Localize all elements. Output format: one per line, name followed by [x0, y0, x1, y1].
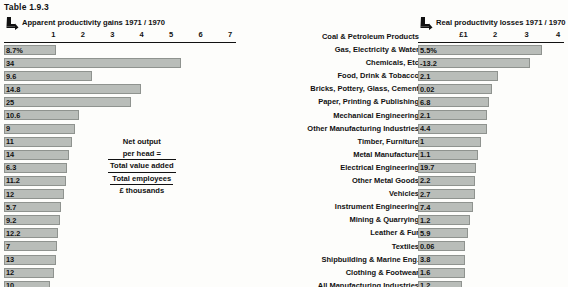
- category-label: Mining & Quarrying: [226, 213, 422, 226]
- bar-value-label: 3.8: [420, 255, 430, 265]
- chart-row: 19.7: [418, 162, 564, 175]
- chart-row: 5.5%: [418, 44, 564, 57]
- bar-value-label: 6.8: [420, 98, 430, 108]
- bar-value-label: 9: [6, 124, 10, 134]
- chart-row: 5.9: [418, 227, 564, 240]
- category-label: Gas, Electricity & Water: [226, 43, 422, 56]
- category-label: Metal Manufacture: [226, 148, 422, 161]
- left-note-line-4: Total employees: [110, 173, 173, 186]
- category-label: Electrical Engineering: [226, 161, 422, 174]
- bar-value-label: 12: [6, 190, 14, 200]
- category-label: Other Metal Goods: [226, 174, 422, 187]
- chart-row: 25: [4, 96, 236, 109]
- axis-tick: 5: [169, 30, 173, 39]
- bar-value-label: 25: [6, 98, 14, 108]
- bar: [4, 97, 131, 107]
- bar-value-label: 11.2: [6, 176, 20, 186]
- category-label: Shipbuilding & Marine Eng.: [226, 253, 422, 266]
- chart-row: 9: [4, 123, 236, 136]
- chart-row: 2.2: [418, 175, 564, 188]
- chart-row: 12.2: [4, 227, 236, 240]
- chart-row: -13.2: [418, 57, 564, 70]
- category-label: Food, Drink & Tobacco: [226, 69, 422, 82]
- category-label: Mechanical Engineering: [226, 109, 422, 122]
- bar-value-label: 1.6: [420, 268, 430, 278]
- axis-tick: 2: [493, 30, 497, 39]
- chart-row: 0.02: [418, 83, 564, 96]
- chart-row: 3.8: [418, 254, 564, 267]
- bar-value-label: 0.06: [420, 242, 434, 252]
- left-note-line-1: Net output: [108, 136, 176, 148]
- bar-value-label: 1: [420, 137, 424, 147]
- chart-row: 10.6: [4, 109, 236, 122]
- chart-row: 12: [4, 267, 236, 280]
- category-label: Other Manufacturing Industries: [226, 122, 422, 135]
- chart-row: 1.6: [418, 267, 564, 280]
- down-arrow-icon: [419, 17, 433, 30]
- bar-value-label: 2.1: [420, 111, 430, 121]
- chart-row: 2.1: [418, 109, 564, 122]
- right-panel-title: Real productivity losses 1971 / 1970: [436, 18, 566, 27]
- bar-value-label: 5.9: [420, 229, 430, 239]
- chart-row: 7.4: [418, 201, 564, 214]
- chart-row: 13: [4, 254, 236, 267]
- bar: [4, 137, 72, 147]
- bar-value-label: 1.2: [420, 281, 430, 287]
- chart-row: 2.1: [418, 70, 564, 83]
- bar: [4, 84, 141, 94]
- bar-value-label: 14: [6, 150, 14, 160]
- bar-value-label: 5.5%: [420, 46, 437, 56]
- bar-value-label: 10.6: [6, 111, 20, 121]
- axis-tick: 1: [51, 30, 55, 39]
- chart-row: 9.2: [4, 214, 236, 227]
- right-axis-rule: [418, 42, 564, 43]
- chart-row: 8.7%: [4, 44, 236, 57]
- category-list: Coal & Petroleum ProductsGas, Electricit…: [226, 30, 422, 287]
- bar-value-label: 9.2: [6, 216, 16, 226]
- bar-value-label: -13.2: [420, 59, 437, 69]
- category-label: Coal & Petroleum Products: [226, 30, 422, 43]
- bar: [4, 241, 57, 251]
- left-note-line-3: Total value added: [108, 159, 176, 173]
- bar-value-label: 34: [6, 59, 14, 69]
- left-panel-title: Apparent productivity gains 1971 / 1970: [22, 18, 165, 27]
- right-axis: £1234: [418, 30, 564, 43]
- chart-row: 7: [4, 240, 236, 253]
- bar-value-label: 1.1: [420, 150, 430, 160]
- category-label: Chemicals, Etc: [226, 56, 422, 69]
- category-label: All Manufacturing Industries: [226, 279, 422, 287]
- chart-row: 2.7: [418, 188, 564, 201]
- category-label: Paper, Printing & Publishing: [226, 95, 422, 108]
- bar-value-label: 0.02: [420, 85, 434, 95]
- right-bars: 5.5%-13.22.10.026.82.14.411.119.72.22.77…: [418, 44, 564, 287]
- chart-row: 1.2: [418, 214, 564, 227]
- chart-row: 0.06: [418, 240, 564, 253]
- bar-value-label: 2.7: [420, 190, 430, 200]
- axis-tick: 2: [81, 30, 85, 39]
- bar-value-label: 2.1: [420, 72, 430, 82]
- bar: [418, 137, 481, 147]
- category-label: Instrument Engineering: [226, 200, 422, 213]
- bar-value-label: 6.3: [6, 163, 16, 173]
- bar-value-label: 5.7: [6, 203, 16, 213]
- down-arrow-icon: [5, 17, 19, 30]
- bar-value-label: 12.2: [6, 229, 20, 239]
- chart-row: 34: [4, 57, 236, 70]
- bar-value-label: 12: [6, 268, 14, 278]
- axis-tick: 3: [524, 30, 528, 39]
- bar-value-label: 4.4: [420, 124, 430, 134]
- axis-tick: 4: [140, 30, 144, 39]
- left-axis: 1234567: [4, 30, 236, 43]
- chart-row: 9.6: [4, 70, 236, 83]
- bar-value-label: 1.2: [420, 216, 430, 226]
- bar-value-label: 10: [6, 281, 14, 287]
- axis-tick: 6: [198, 30, 202, 39]
- category-label: Clothing & Footwear: [226, 266, 422, 279]
- bar-value-label: 2.2: [420, 176, 430, 186]
- category-label: Vehicles: [226, 187, 422, 200]
- axis-tick: £1: [459, 30, 467, 39]
- category-label: Bricks, Pottery, Glass, Cement: [226, 82, 422, 95]
- chart-row: 1: [418, 136, 564, 149]
- table-label: Table 1.9.3: [4, 2, 49, 12]
- chart-row: 1.2: [418, 280, 564, 287]
